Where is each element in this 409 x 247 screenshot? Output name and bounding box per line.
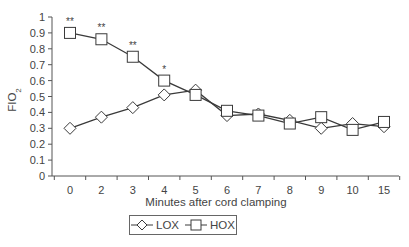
legend-label-lox: LOX <box>156 219 179 231</box>
y-axis: 00.10.20.30.40.50.60.70.80.91 <box>30 11 52 182</box>
legend: LOX HOX <box>129 215 237 235</box>
significance-marker: ** <box>66 16 74 27</box>
diamond-marker <box>64 122 76 134</box>
square-marker <box>379 116 390 127</box>
significance-marker: ** <box>98 22 106 33</box>
square-marker <box>127 51 138 62</box>
y-tick-label: 0.8 <box>30 43 45 55</box>
diamond-marker <box>315 122 327 134</box>
diamond-marker-icon <box>131 219 153 231</box>
line-chart: 00.10.20.30.40.50.60.70.80.91 0234567891… <box>0 0 409 247</box>
y-tick-label: 0.5 <box>30 91 45 103</box>
x-tick-label: 15 <box>378 184 390 196</box>
x-tick-label: 4 <box>161 184 167 196</box>
y-tick-label: 0.4 <box>30 106 45 118</box>
x-tick-label: 9 <box>318 184 324 196</box>
y-tick-label: 0.3 <box>30 122 45 134</box>
legend-item-hox: HOX <box>185 219 235 231</box>
square-marker <box>190 89 201 100</box>
x-tick-label: 5 <box>193 184 199 196</box>
square-marker <box>159 75 170 86</box>
square-marker <box>65 27 76 38</box>
x-tick-label: 3 <box>130 184 136 196</box>
square-marker <box>96 34 107 45</box>
diamond-marker <box>95 111 107 123</box>
square-marker <box>316 112 327 123</box>
x-axis: 0234567891015 <box>52 176 400 196</box>
y-tick-label: 0 <box>39 170 45 182</box>
x-tick-label: 6 <box>224 184 230 196</box>
square-marker <box>347 124 358 135</box>
y-tick-label: 0.6 <box>30 75 45 87</box>
x-tick-label: 0 <box>67 184 73 196</box>
x-axis-title: Minutes after cord clamping <box>145 196 286 208</box>
diamond-marker <box>158 89 170 101</box>
square-marker <box>284 118 295 129</box>
legend-item-lox: LOX <box>131 219 179 231</box>
square-marker <box>253 110 264 121</box>
x-tick-label: 7 <box>255 184 261 196</box>
x-tick-label: 2 <box>98 184 104 196</box>
y-tick-label: 0.9 <box>30 27 45 39</box>
diamond-marker <box>127 102 139 114</box>
significance-marker: ** <box>129 40 137 51</box>
y-tick-label: 0.1 <box>30 154 45 166</box>
x-tick-label: 8 <box>287 184 293 196</box>
y-tick-label: 0.7 <box>30 59 45 71</box>
square-marker-icon <box>185 219 207 231</box>
y-tick-label: 1 <box>39 11 45 23</box>
x-tick-label: 10 <box>346 184 358 196</box>
series-layer: ******* <box>64 16 390 135</box>
square-marker <box>222 105 233 116</box>
y-tick-label: 0.2 <box>30 138 45 150</box>
legend-label-hox: HOX <box>210 219 235 231</box>
significance-marker: * <box>162 64 166 75</box>
y-axis-title: FIO2 <box>6 88 23 112</box>
